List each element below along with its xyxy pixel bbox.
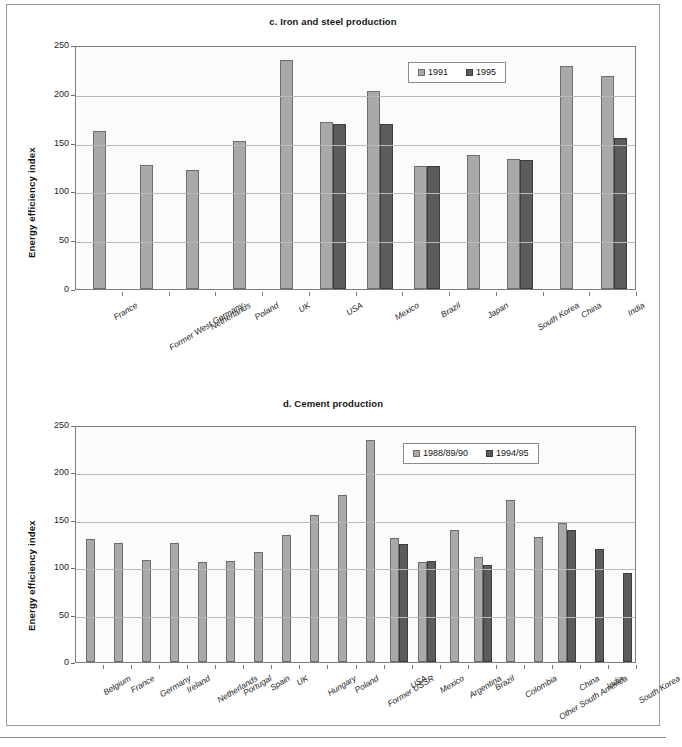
gridline	[76, 193, 635, 194]
bar	[507, 159, 520, 289]
x-axis-tick-mark	[159, 665, 160, 669]
x-axis-tick-label: Poland	[252, 300, 280, 322]
y-axis-tick-label: 150	[35, 516, 69, 525]
bar	[86, 539, 95, 662]
legend-item: 1995	[466, 68, 496, 77]
x-axis-tick-mark	[215, 665, 216, 669]
bar	[226, 561, 235, 662]
x-axis-tick-mark	[131, 665, 132, 669]
bar	[390, 538, 399, 662]
bar	[399, 544, 408, 662]
x-axis-tick-label: China	[579, 300, 603, 320]
bar	[414, 166, 427, 289]
x-axis-tick-mark	[243, 665, 244, 669]
bar	[310, 515, 319, 662]
legend-swatch-icon	[413, 450, 420, 457]
bar	[93, 131, 106, 289]
plot-area-d	[75, 426, 636, 663]
bar	[534, 537, 543, 662]
y-axis-tick-mark	[71, 95, 75, 96]
x-axis-tick-label: Poland	[353, 673, 381, 695]
chart-title-c: c. Iron and steel production	[0, 16, 666, 27]
x-axis-tick-mark	[262, 292, 263, 296]
y-axis-tick-label: 250	[35, 421, 69, 430]
x-axis-tick-label: USA	[345, 300, 365, 317]
bar	[450, 530, 459, 662]
x-axis-tick-mark	[299, 665, 300, 669]
x-axis-tick-mark	[327, 665, 328, 669]
x-axis-tick-label: Mexico	[437, 673, 465, 695]
x-axis-tick-mark	[215, 292, 216, 296]
x-axis-tick-label: France	[112, 300, 140, 322]
bar	[467, 155, 480, 289]
bar	[474, 557, 483, 662]
x-axis-tick-mark	[122, 292, 123, 296]
chart-title-d: d. Cement production	[0, 398, 666, 409]
bar	[380, 124, 393, 289]
y-axis-tick-label: 250	[35, 41, 69, 50]
x-axis-tick-label: UK	[297, 300, 312, 315]
x-axis-tick-mark	[271, 665, 272, 669]
gridline	[76, 569, 635, 570]
bar	[338, 495, 347, 662]
y-axis-tick-mark	[71, 616, 75, 617]
x-axis-tick-mark	[402, 292, 403, 296]
x-axis-tick-mark	[169, 292, 170, 296]
x-axis-tick-label: Spain	[268, 673, 292, 693]
bar-group-d	[76, 427, 635, 662]
legend-item: 1988/89/90	[413, 449, 468, 458]
y-axis-tick-label: 50	[35, 236, 69, 245]
bar	[506, 500, 515, 662]
x-axis-tick-label: UK	[295, 673, 310, 688]
x-axis-tick-label: Japan	[486, 300, 511, 320]
x-axis-tick-mark	[356, 665, 357, 669]
y-axis-tick-mark	[71, 144, 75, 145]
bar	[418, 562, 427, 662]
x-axis-labels-c: FranceFormer West GermanyNetherlandsPola…	[0, 292, 666, 362]
x-axis-tick-label: South Korea	[637, 673, 682, 706]
gridline	[76, 522, 635, 523]
legend-d: 1988/89/901994/95	[403, 443, 539, 464]
x-axis-tick-mark	[412, 665, 413, 669]
x-axis-tick-mark	[496, 665, 497, 669]
x-axis-tick-label: Brazil	[439, 300, 462, 319]
y-axis-tick-label: 200	[35, 90, 69, 99]
x-axis-tick-mark	[636, 292, 637, 296]
x-axis-tick-mark	[543, 292, 544, 296]
x-axis-tick-mark	[187, 665, 188, 669]
chart-panel-cement: d. Cement production Energy efficiency i…	[0, 383, 666, 747]
x-axis-tick-mark	[449, 292, 450, 296]
y-axis-tick-mark	[71, 290, 75, 291]
bar	[558, 523, 567, 662]
legend-label: 1995	[476, 68, 496, 77]
x-axis-tick-label: France	[129, 673, 157, 695]
x-axis-labels-d: BelgiumFranceGermanyIrelandNetherlandsPo…	[0, 665, 666, 735]
y-axis-tick-mark	[71, 426, 75, 427]
bar	[483, 565, 492, 662]
x-axis-tick-mark	[309, 292, 310, 296]
x-axis-tick-mark	[524, 665, 525, 669]
bar	[427, 561, 436, 662]
chart-panel-iron-and-steel: c. Iron and steel production Energy effi…	[0, 0, 666, 375]
bar	[333, 124, 346, 289]
y-axis-tick-label: 150	[35, 139, 69, 148]
legend-swatch-icon	[418, 69, 425, 76]
gridline	[76, 474, 635, 475]
legend-swatch-icon	[486, 450, 493, 457]
bar	[320, 122, 333, 289]
gridline	[76, 617, 635, 618]
y-axis-tick-label: 200	[35, 468, 69, 477]
bar	[520, 160, 533, 289]
x-axis-tick-mark	[440, 665, 441, 669]
gridline	[76, 242, 635, 243]
gridline	[76, 96, 635, 97]
legend-c: 19911995	[408, 62, 506, 83]
x-axis-tick-mark	[468, 665, 469, 669]
x-axis-tick-mark	[608, 665, 609, 669]
bar	[186, 170, 199, 289]
x-axis-tick-mark	[384, 665, 385, 669]
bar	[601, 76, 614, 289]
bar	[595, 549, 604, 662]
x-axis-tick-label: Former USSR	[385, 673, 435, 709]
